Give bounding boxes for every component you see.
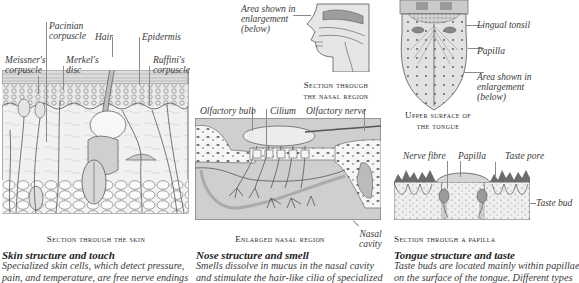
caption-tongue-surface: Upper surface of the tongue [378, 110, 498, 132]
leader-taste-pore [495, 162, 496, 176]
label-olfactory-bulb: Olfactory bulb [200, 106, 256, 116]
text-nose-description: Smells dissolve in mucus in the nasal ca… [196, 260, 383, 283]
enlarged-nasal-illustration [195, 118, 381, 220]
label-papilla-section: Papilla [458, 151, 486, 161]
papilla-section-illustration [394, 168, 530, 220]
text-tongue-description: Taste buds are located mainly within pap… [394, 260, 579, 283]
label-pacinian-corpuscle: Pacinian corpuscle [49, 21, 86, 41]
label-nasal-cavity: Nasal cavity [359, 229, 382, 249]
tongue-surface-illustration [396, 0, 472, 112]
label-meissners-corpuscle: Meissner's corpuscle [5, 55, 46, 75]
leader-nerve-fibre [447, 161, 448, 189]
label-taste-bud: Taste bud [536, 198, 572, 208]
label-merkels-disc: Merkel's disc [66, 55, 99, 75]
label-cilium: Cilium [270, 106, 296, 116]
label-nasal-area-enlargement: Area shown in enlargement (below) [241, 4, 296, 34]
leader-merkel [63, 66, 64, 90]
label-tongue-area-enlargement: Area shown in enlargement (below) [477, 72, 532, 102]
leader-epidermis [139, 37, 140, 85]
skin-section-illustration [2, 70, 192, 230]
leader-cilium [266, 109, 267, 159]
label-taste-pore: Taste pore [505, 151, 544, 161]
caption-enlarged-nasal-region: Enlarged nasal region [210, 234, 350, 245]
label-hair: Hair [95, 32, 113, 42]
leader-nasal-area [293, 15, 311, 16]
caption-nasal-section: Section through the nasal region [286, 80, 386, 102]
text-skin-description: Specialized skin cells, which detect pre… [2, 260, 188, 283]
label-olfactory-nerve: Olfactory nerve [306, 106, 366, 116]
label-lingual-tonsil: Lingual tonsil [477, 20, 530, 30]
caption-skin-section: Section through the skin [0, 234, 192, 245]
leader-papilla-section [460, 161, 461, 177]
label-ruffinis-corpuscle: Ruffini's corpuscle [153, 55, 190, 75]
label-papilla: Papilla [477, 46, 505, 56]
label-epidermis: Epidermis [142, 32, 181, 42]
leader-meissner [38, 76, 39, 94]
leader-nasal-cavity [353, 220, 359, 226]
nasal-head-section-illustration [305, 2, 371, 72]
leader-pacinian [46, 22, 47, 142]
leader-ruffini [149, 66, 150, 106]
label-nerve-fibre: Nerve fibre [403, 151, 446, 161]
caption-papilla-section: Section through a papilla [394, 234, 528, 245]
